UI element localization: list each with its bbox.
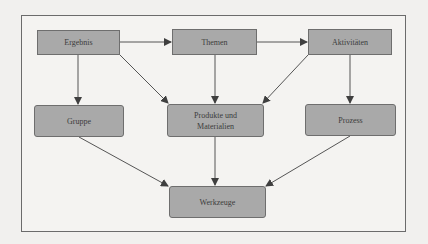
node-themen: Themen bbox=[172, 29, 257, 55]
node-werkzeuge: Werkzeuge bbox=[169, 186, 266, 218]
edge-ergebnis-produkte bbox=[120, 55, 168, 103]
node-label: Gruppe bbox=[67, 116, 91, 127]
node-aktivitaeten: Aktivitäten bbox=[308, 29, 392, 55]
node-prozess: Prozess bbox=[305, 104, 396, 136]
edge-prozess-werkzeuge bbox=[266, 136, 350, 186]
node-label-line2: Materialien bbox=[197, 121, 234, 132]
node-label-line1: Produkte und bbox=[194, 110, 237, 121]
node-produkte-und-materialien: Produkte und Materialien bbox=[167, 104, 264, 137]
node-label: Ergebnis bbox=[64, 37, 92, 48]
node-label: Themen bbox=[201, 37, 227, 48]
node-label: Prozess bbox=[338, 115, 362, 126]
node-label: Werkzeuge bbox=[200, 197, 236, 208]
node-ergebnis: Ergebnis bbox=[37, 30, 120, 55]
edge-gruppe-werkzeuge bbox=[79, 137, 168, 186]
node-gruppe: Gruppe bbox=[34, 105, 124, 137]
node-label: Aktivitäten bbox=[332, 37, 368, 48]
edge-aktivitaeten-produkte bbox=[263, 55, 308, 103]
